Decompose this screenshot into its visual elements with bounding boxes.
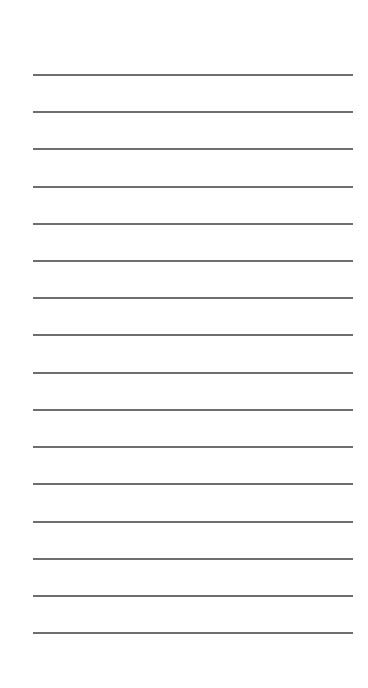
- ruled-line: [33, 558, 353, 560]
- ruled-line: [33, 483, 353, 485]
- ruled-line: [33, 111, 353, 113]
- ruled-line: [33, 297, 353, 299]
- ruled-line: [33, 595, 353, 597]
- ruled-line: [33, 334, 353, 336]
- ruled-line: [33, 148, 353, 150]
- lined-paper: [0, 0, 368, 688]
- ruled-line: [33, 521, 353, 523]
- ruled-line: [33, 186, 353, 188]
- ruled-line: [33, 446, 353, 448]
- ruled-line: [33, 260, 353, 262]
- ruled-line: [33, 409, 353, 411]
- ruled-line: [33, 372, 353, 374]
- ruled-line: [33, 74, 353, 76]
- ruled-line: [33, 632, 353, 634]
- ruled-line: [33, 223, 353, 225]
